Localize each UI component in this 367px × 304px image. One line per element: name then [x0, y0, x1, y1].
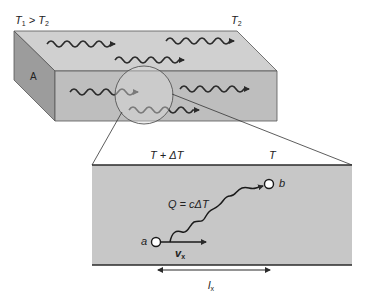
label-velocity-vx: vx	[175, 248, 185, 260]
slab-top-face	[14, 31, 277, 71]
label-t: T	[269, 150, 276, 161]
label-point-a: a	[141, 236, 147, 247]
label-face-a: A	[30, 72, 37, 82]
point-a	[152, 238, 161, 247]
zoom-panel-area	[92, 165, 352, 265]
label-point-b: b	[279, 178, 285, 189]
label-t-plus-delta-t: T + ΔT	[150, 150, 183, 161]
label-energy-q: Q = cΔT	[168, 199, 209, 210]
label-t1-greater-t2: T1 > T2	[15, 15, 49, 27]
label-t2: T2	[231, 15, 242, 27]
zoom-panel	[92, 165, 352, 265]
label-mean-free-path-lx: lx	[208, 280, 214, 292]
magnifier-circle	[115, 66, 173, 124]
heat-conduction-diagram: T1 > T2 T2 A T + ΔT T Q = cΔT a b vx lx	[0, 0, 367, 304]
point-b	[265, 180, 274, 189]
